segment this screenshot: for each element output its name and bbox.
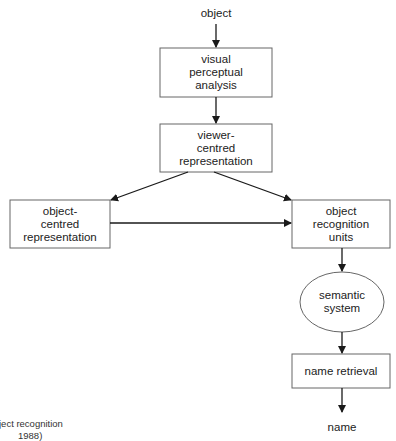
arrow-viewer-to-object-centred (111, 172, 188, 200)
figure-caption-line-2: 1988) (18, 430, 42, 441)
arrow-viewer-to-recognition-units (214, 172, 291, 200)
input-object-label: object (176, 7, 256, 20)
visual-perceptual-analysis-label: visual perceptual analysis (160, 53, 272, 92)
object-centred-representation-label: object- centred representation (10, 205, 110, 244)
output-name-label: name (302, 421, 382, 434)
name-retrieval-label: name retrieval (292, 365, 390, 378)
figure-caption-line-1: ject recognition (0, 418, 63, 429)
semantic-system-label: semantic system (300, 289, 384, 315)
viewer-centred-representation-label: viewer- centred representation (160, 129, 272, 168)
object-recognition-units-label: object recognition units (292, 205, 390, 244)
